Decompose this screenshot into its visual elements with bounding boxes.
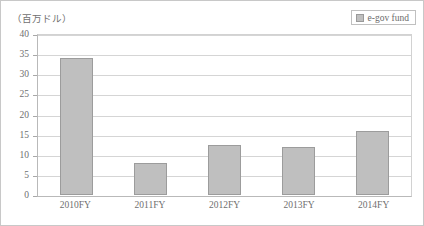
y-axis-tick-label: 30 bbox=[5, 70, 29, 80]
chart-legend: e-gov fund bbox=[351, 10, 416, 25]
x-axis-labels: 2010FY2011FY2012FY2013FY2014FY bbox=[38, 200, 411, 211]
bar-2012FY[interactable] bbox=[208, 145, 241, 195]
bar-2013FY[interactable] bbox=[282, 147, 315, 195]
chart-figure: （百万ドル） e-gov fund 4035302520151050 2010F… bbox=[0, 0, 424, 226]
y-axis-tick-mark bbox=[33, 196, 37, 197]
bar-slot bbox=[113, 36, 187, 195]
y-axis-tick-label: 0 bbox=[5, 191, 29, 201]
bar-group bbox=[39, 36, 410, 195]
y-axis-tick-label: 20 bbox=[5, 111, 29, 121]
y-axis-tick-label: 15 bbox=[5, 131, 29, 141]
y-axis-tick-label: 10 bbox=[5, 151, 29, 161]
x-axis-tick-label-2010FY: 2010FY bbox=[38, 200, 113, 211]
y-axis-tick-mark bbox=[33, 116, 37, 117]
y-axis-tick-label: 35 bbox=[5, 50, 29, 60]
x-axis-tick-label-2011FY: 2011FY bbox=[113, 200, 188, 211]
y-axis-tick-label: 25 bbox=[5, 90, 29, 100]
y-axis-tick-mark bbox=[33, 136, 37, 137]
legend-label-e-gov-fund: e-gov fund bbox=[368, 13, 409, 23]
bar-slot bbox=[187, 36, 261, 195]
y-axis-tick-mark bbox=[33, 156, 37, 157]
y-axis-tick-mark bbox=[33, 95, 37, 96]
x-axis-tick-label-2013FY: 2013FY bbox=[262, 200, 337, 211]
bar-2014FY[interactable] bbox=[356, 131, 389, 195]
y-axis-unit-label: （百万ドル） bbox=[12, 13, 72, 25]
y-axis-tick-mark bbox=[33, 55, 37, 56]
bar-2011FY[interactable] bbox=[134, 163, 167, 195]
bar-slot bbox=[336, 36, 410, 195]
y-axis-tick-mark bbox=[33, 35, 37, 36]
y-axis-tick-mark bbox=[33, 176, 37, 177]
y-axis-tick-label: 5 bbox=[5, 171, 29, 181]
bar-2010FY[interactable] bbox=[60, 58, 93, 195]
legend-swatch-e-gov-fund bbox=[356, 14, 364, 22]
x-axis-tick-label-2014FY: 2014FY bbox=[336, 200, 411, 211]
plot-area bbox=[37, 34, 412, 197]
bar-slot bbox=[39, 36, 113, 195]
y-axis-tick-label: 40 bbox=[5, 30, 29, 40]
bar-slot bbox=[262, 36, 336, 195]
y-axis-tick-mark bbox=[33, 75, 37, 76]
x-axis-tick-label-2012FY: 2012FY bbox=[187, 200, 262, 211]
